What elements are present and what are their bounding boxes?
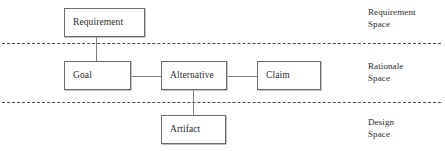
space-label-requirement-line2: Space bbox=[368, 19, 416, 31]
space-label-rationale: Rationale Space bbox=[368, 61, 403, 84]
space-label-requirement-line1: Requirement bbox=[368, 7, 416, 17]
node-requirement-label: Requirement bbox=[73, 16, 123, 27]
diagram-canvas: Requirement Goal Alternative Claim Artif… bbox=[0, 0, 445, 151]
connector-requirement-goal bbox=[96, 36, 97, 62]
node-claim[interactable]: Claim bbox=[257, 61, 321, 90]
space-label-rationale-line2: Space bbox=[368, 73, 403, 85]
node-requirement[interactable]: Requirement bbox=[64, 8, 145, 37]
space-label-design-line2: Space bbox=[368, 129, 394, 141]
node-alternative-label: Alternative bbox=[170, 69, 214, 80]
node-artifact-label: Artifact bbox=[170, 123, 200, 134]
space-label-rationale-line1: Rationale bbox=[368, 61, 403, 71]
node-goal[interactable]: Goal bbox=[64, 61, 131, 90]
space-label-requirement: Requirement Space bbox=[368, 7, 416, 30]
space-label-design: Design Space bbox=[368, 117, 394, 140]
node-artifact[interactable]: Artifact bbox=[161, 115, 226, 144]
node-claim-label: Claim bbox=[266, 69, 290, 80]
space-label-design-line1: Design bbox=[368, 117, 394, 127]
node-alternative[interactable]: Alternative bbox=[161, 61, 227, 90]
space-divider-rationale-design bbox=[2, 102, 441, 103]
connector-alternative-claim bbox=[226, 76, 258, 77]
space-divider-requirement-rationale bbox=[2, 43, 441, 44]
node-goal-label: Goal bbox=[73, 69, 92, 80]
connector-goal-alternative bbox=[130, 76, 162, 77]
